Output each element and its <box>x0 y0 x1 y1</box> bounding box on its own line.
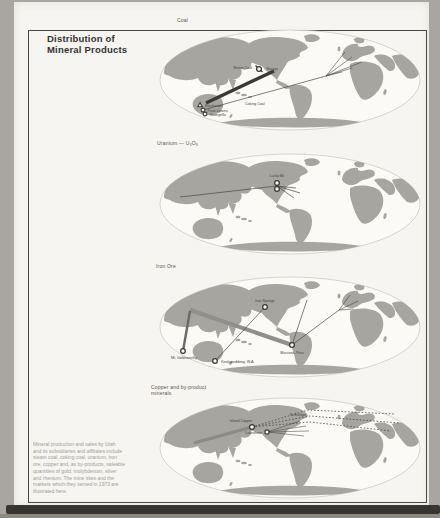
coal-mine-label-3: Goonyella <box>210 113 226 117</box>
description-line: ore, copper and, as by-products, saleabl… <box>33 461 151 468</box>
map-iron-ore: Iron Springs Marcona, Peru Mt. Goldswort… <box>158 275 422 379</box>
description-paragraph: Mineral production and sales by Utah and… <box>33 441 151 495</box>
copper-route-note: To Europe <box>290 413 306 417</box>
map-coal: Blackwater Peak Downs Goonyella Coking C… <box>158 28 422 132</box>
iron-australia-mine-label-2: Koolyanobbing, W.A. <box>221 360 254 364</box>
caption-uranium: Uranium — U₃O₈ <box>157 141 198 147</box>
uranium-mine-label: Lucky Mc <box>269 174 284 178</box>
coal-route-note: Coking Coal <box>245 102 265 106</box>
scan-bottom-edge <box>0 514 440 518</box>
page-title-line2: Mineral Products <box>47 44 127 55</box>
coal-us-label-left: Steam Coal <box>233 66 252 70</box>
map-copper: Island Copper Lakeshore To Europe <box>158 396 422 500</box>
description-line: Mineral production and sales by Utah <box>33 441 151 448</box>
caption-copper: Copper and by-product minerals <box>151 385 206 397</box>
iron-australia-mine-label-1: Mt. Goldsworthy <box>171 356 197 360</box>
coal-mine-label-1: Blackwater <box>205 104 223 108</box>
caption-coal: Coal <box>177 18 188 24</box>
map-uranium: Lucky Mc <box>158 152 422 256</box>
description-line: markets which they served in 1973 are <box>33 481 151 488</box>
description-line: and its subsidiaries and affiliates incl… <box>33 448 151 455</box>
description-line: and rhenium. The mine sites and the <box>33 475 151 482</box>
description-line: illustrated here. <box>33 488 151 495</box>
coal-us-label-right: Navajo <box>267 67 278 71</box>
description-line: steam coal, coking coal, uranium, iron <box>33 454 151 461</box>
caption-iron-ore: Iron Ore <box>156 264 176 270</box>
description-line: quantities of gold, molybdenum, silver <box>33 468 151 475</box>
scan-bottom-shadow <box>6 505 440 514</box>
page-title: Distribution of Mineral Products <box>47 33 127 55</box>
iron-us-mine-label: Iron Springs <box>255 299 275 303</box>
page-title-line1: Distribution of <box>47 33 127 44</box>
copper-us-mine-label: Lakeshore <box>245 431 262 435</box>
iron-peru-mine-label: Marcona, Peru <box>280 351 304 355</box>
copper-bc-mine-label: Island Copper <box>230 419 253 423</box>
